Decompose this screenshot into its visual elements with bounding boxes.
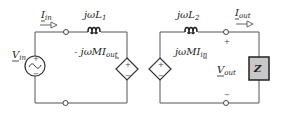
vout-minus-sign: − xyxy=(224,91,230,99)
primary-top-terminal xyxy=(64,30,69,35)
primary-bottom-terminal xyxy=(63,101,68,106)
inductor-l1 xyxy=(88,28,100,34)
inductor-l2 xyxy=(185,28,197,34)
dep1-minus-sign: − xyxy=(125,72,131,80)
iout-arrow-icon xyxy=(236,21,253,27)
l2-label: jωL2 xyxy=(175,9,200,22)
load-impedance-label: Z xyxy=(253,63,262,74)
primary-circuit: + − Vin Iin jωL1 + − - jωMIout xyxy=(12,9,138,106)
ac-voltage-source: + − xyxy=(25,55,45,78)
iin-label: Iin xyxy=(40,9,52,22)
source-plus-sign: + xyxy=(33,55,39,63)
vin-label: Vin xyxy=(12,49,26,62)
primary-dependent-voltage-source: + − xyxy=(116,58,138,80)
load-impedance: Z xyxy=(249,57,269,80)
iin-arrow-icon xyxy=(40,22,57,28)
dep2-minus-sign: − xyxy=(158,72,164,80)
source-minus-sign: − xyxy=(33,70,39,78)
secondary-dependent-voltage-source: + − xyxy=(149,58,171,80)
dep1-label: - jωMIout xyxy=(74,46,118,59)
iout-label: Iout xyxy=(234,7,251,20)
secondary-circuit: + − jωL2 Iout + − jωMIin Vout Z xyxy=(149,7,269,106)
dep1-plus-sign: + xyxy=(125,61,131,69)
secondary-top-terminal xyxy=(224,30,229,35)
secondary-left-lower-wire xyxy=(160,80,259,103)
secondary-bottom-terminal xyxy=(224,101,229,106)
coupled-inductor-circuit: + − Vin Iin jωL1 + − - jωMIout xyxy=(0,0,285,114)
l1-label: jωL1 xyxy=(82,9,106,22)
vout-label: Vout xyxy=(217,64,236,77)
dep2-label: jωMIin xyxy=(173,46,208,59)
vout-plus-sign: + xyxy=(224,38,230,46)
dep2-plus-sign: + xyxy=(158,61,164,69)
